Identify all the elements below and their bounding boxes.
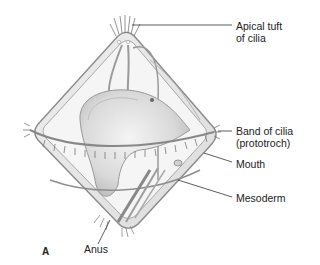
label-anus: Anus [84, 243, 108, 255]
apical-tuft-cilia [110, 15, 140, 36]
panel-letter: A [42, 246, 49, 257]
label-band-of-cilia: Band of cilia (prototroch) [236, 125, 293, 149]
larva-body [35, 32, 216, 228]
label-mouth: Mouth [236, 158, 265, 170]
label-mesoderm: Mesoderm [236, 192, 286, 204]
label-apical-tuft: Apical tuft of cilia [236, 20, 282, 44]
